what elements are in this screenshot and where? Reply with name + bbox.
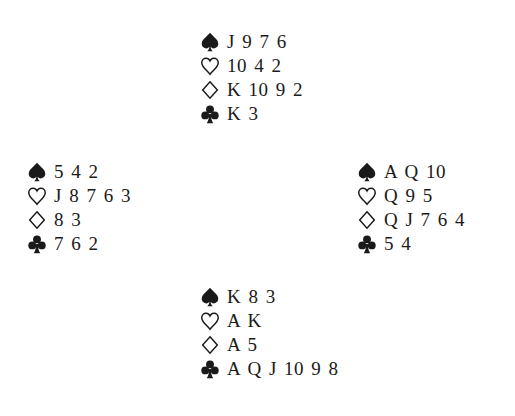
south-hearts-line: A K	[199, 309, 339, 333]
south-diamonds-cards: A 5	[227, 333, 257, 357]
west-clubs-cards: 7 6 2	[54, 232, 99, 256]
east-hand: A Q 10 Q 9 5 Q J 7 6 4 5 4	[356, 160, 465, 256]
heart-icon	[356, 185, 378, 207]
south-diamonds-line: A 5	[199, 333, 339, 357]
north-clubs-line: K 3	[199, 102, 303, 126]
west-spades-cards: 5 4 2	[54, 160, 99, 184]
club-icon	[26, 233, 48, 255]
north-hearts-cards: 10 4 2	[227, 54, 282, 78]
spade-icon	[199, 286, 221, 308]
heart-icon	[199, 55, 221, 77]
heart-icon	[199, 310, 221, 332]
north-hand: J 9 7 6 10 4 2 K 10 9 2 K 3	[199, 30, 303, 126]
diamond-icon	[356, 209, 378, 231]
spade-icon	[199, 31, 221, 53]
club-icon	[199, 103, 221, 125]
south-clubs-line: A Q J 10 9 8	[199, 357, 339, 381]
north-diamonds-line: K 10 9 2	[199, 78, 303, 102]
diamond-icon	[199, 334, 221, 356]
west-hearts-line: J 8 7 6 3	[26, 184, 131, 208]
east-spades-line: A Q 10	[356, 160, 465, 184]
north-diamonds-cards: K 10 9 2	[227, 78, 303, 102]
diamond-icon	[199, 79, 221, 101]
south-hearts-cards: A K	[227, 309, 262, 333]
south-spades-line: K 8 3	[199, 285, 339, 309]
west-diamonds-cards: 8 3	[54, 208, 81, 232]
west-clubs-line: 7 6 2	[26, 232, 131, 256]
spade-icon	[356, 161, 378, 183]
south-clubs-cards: A Q J 10 9 8	[227, 357, 339, 381]
east-clubs-cards: 5 4	[384, 232, 411, 256]
east-spades-cards: A Q 10	[384, 160, 446, 184]
diamond-icon	[26, 209, 48, 231]
north-hearts-line: 10 4 2	[199, 54, 303, 78]
west-spades-line: 5 4 2	[26, 160, 131, 184]
east-diamonds-cards: Q J 7 6 4	[384, 208, 465, 232]
east-hearts-line: Q 9 5	[356, 184, 465, 208]
north-spades-line: J 9 7 6	[199, 30, 303, 54]
spade-icon	[26, 161, 48, 183]
south-spades-cards: K 8 3	[227, 285, 276, 309]
north-clubs-cards: K 3	[227, 102, 258, 126]
west-diamonds-line: 8 3	[26, 208, 131, 232]
west-hearts-cards: J 8 7 6 3	[54, 184, 131, 208]
club-icon	[356, 233, 378, 255]
south-hand: K 8 3 A K A 5 A Q J 10 9 8	[199, 285, 339, 381]
east-clubs-line: 5 4	[356, 232, 465, 256]
heart-icon	[26, 185, 48, 207]
east-diamonds-line: Q J 7 6 4	[356, 208, 465, 232]
east-hearts-cards: Q 9 5	[384, 184, 433, 208]
club-icon	[199, 358, 221, 380]
north-spades-cards: J 9 7 6	[227, 30, 287, 54]
west-hand: 5 4 2 J 8 7 6 3 8 3 7 6 2	[26, 160, 131, 256]
